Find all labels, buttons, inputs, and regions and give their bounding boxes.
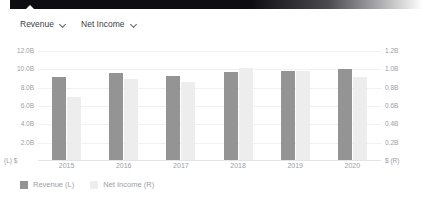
right-axis-unit: $ (R)	[385, 158, 399, 165]
right-axis-tick: 0.4B	[385, 121, 398, 128]
bar-net-income[interactable]	[124, 79, 138, 162]
bar-group[interactable]	[166, 51, 195, 161]
right-axis-tick: 1.0B	[385, 66, 398, 73]
legend-swatch	[20, 181, 28, 189]
metric-selector-row: Revenue Net Income	[0, 14, 138, 34]
chevron-down-icon[interactable]	[60, 21, 67, 28]
bar-revenue[interactable]	[338, 69, 352, 161]
left-axis-tick: 12.0B	[17, 48, 34, 55]
bar-net-income[interactable]	[181, 82, 195, 161]
left-axis-tick: 4.0B	[21, 121, 34, 128]
bar-chart: 12.0B1.2B10.0B1.0B8.0B0.8B6.0B0.6B4.0B0.…	[0, 42, 423, 170]
bar-net-income[interactable]	[239, 68, 253, 162]
x-axis-label: 2016	[109, 162, 139, 169]
left-axis-tick: 6.0B	[21, 103, 34, 110]
metric-selector-revenue-label: Revenue	[20, 19, 54, 29]
metric-selector-net-income[interactable]: Net Income	[81, 19, 137, 29]
legend-label: Revenue (L)	[33, 180, 74, 189]
top-overlay-left-gap	[0, 0, 10, 9]
x-axis-label: 2019	[280, 162, 310, 169]
right-axis-tick: 0.2B	[385, 140, 398, 147]
bar-group[interactable]	[281, 51, 310, 161]
x-axis-labels: 201520162017201820192020	[38, 162, 381, 169]
plot-area	[38, 51, 381, 161]
top-overlay-notch	[26, 5, 34, 9]
x-axis-label: 2018	[223, 162, 253, 169]
bar-net-income[interactable]	[67, 97, 81, 161]
right-axis-tick: 0.6B	[385, 103, 398, 110]
bar-group[interactable]	[52, 51, 81, 161]
bar-group[interactable]	[109, 51, 138, 161]
legend-swatch	[90, 181, 98, 189]
metric-selector-revenue[interactable]: Revenue	[20, 19, 67, 29]
x-axis-label: 2020	[337, 162, 367, 169]
bar-revenue[interactable]	[281, 71, 295, 161]
legend-label: Net Income (R)	[103, 180, 154, 189]
bar-revenue[interactable]	[109, 73, 123, 161]
left-axis-unit: (L) $	[4, 158, 17, 165]
bar-net-income[interactable]	[296, 71, 310, 161]
left-axis-tick: 10.0B	[17, 66, 34, 73]
bar-net-income[interactable]	[353, 77, 367, 161]
right-axis-tick: 0.8B	[385, 85, 398, 92]
top-overlay-fade	[250, 0, 423, 9]
bar-group[interactable]	[338, 51, 367, 161]
right-axis-tick: 1.2B	[385, 48, 398, 55]
x-axis-label: 2017	[166, 162, 196, 169]
x-axis-label: 2015	[52, 162, 82, 169]
left-axis-tick: 8.0B	[21, 85, 34, 92]
axis-baseline	[38, 160, 381, 161]
chart-legend: Revenue (L)Net Income (R)	[20, 180, 154, 189]
left-axis-tick: 2.0B	[21, 140, 34, 147]
bar-revenue[interactable]	[52, 77, 66, 161]
bar-group[interactable]	[224, 51, 253, 161]
bar-revenue[interactable]	[224, 72, 238, 161]
chevron-down-icon[interactable]	[131, 21, 138, 28]
bar-groups	[38, 51, 381, 161]
metric-selector-net-income-label: Net Income	[81, 19, 124, 29]
legend-item[interactable]: Net Income (R)	[90, 180, 154, 189]
bar-revenue[interactable]	[166, 76, 180, 161]
legend-item[interactable]: Revenue (L)	[20, 180, 74, 189]
